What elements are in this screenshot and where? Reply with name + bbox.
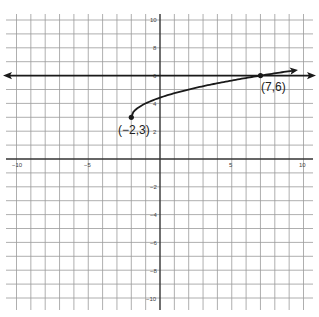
y-tick-label: −2	[150, 184, 158, 190]
point-start	[129, 115, 134, 120]
point-intersection	[258, 73, 263, 78]
x-tick-label: 5	[229, 162, 233, 168]
y-tick-label: 10	[150, 17, 157, 23]
y-tick-label: −4	[150, 212, 158, 218]
x-tick-label: 10	[299, 162, 306, 168]
y-tick-label: −8	[150, 268, 158, 274]
y-tick-label: 2	[153, 129, 157, 135]
x-tick-label: −10	[12, 162, 23, 168]
x-tick-label: −5	[84, 162, 92, 168]
y-tick-label: −10	[146, 296, 157, 302]
y-tick-label: −6	[150, 240, 158, 246]
point-label-start: (−2,3)	[118, 123, 150, 137]
y-tick-label: 4	[153, 101, 157, 107]
point-label-intersection: (7,6)	[261, 80, 286, 94]
coordinate-plane: −10 −5 5 10 10 8 6 4 2 −2 −4 −6 −8 −10 (…	[0, 0, 319, 317]
